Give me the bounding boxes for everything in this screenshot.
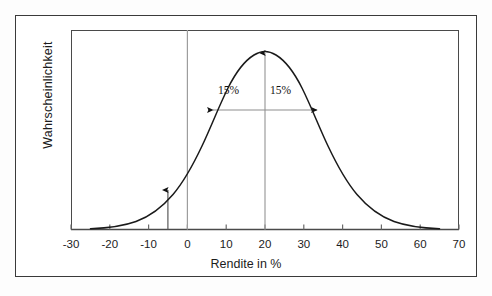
x-tick-label-7: 40	[323, 238, 363, 250]
x-tick-label-8: 50	[361, 238, 401, 250]
sigma-left-label: 15%	[218, 84, 239, 96]
x-tick-label-1: -20	[90, 238, 130, 250]
x-axis-label: Rendite in %	[0, 257, 492, 271]
x-tick-label-3: 0	[167, 238, 207, 250]
y-axis-label: Wahrscheinlichkeit	[41, 20, 55, 170]
x-tick-label-4: 10	[206, 238, 246, 250]
x-tick-label-10: 70	[439, 238, 479, 250]
figure-container: Wahrscheinlichkeit -30 -20 -10 0 10 20 3…	[0, 0, 492, 296]
chart-svg	[0, 0, 492, 296]
sigma-right-label: 15%	[270, 84, 291, 96]
x-tick-label-5: 20	[245, 238, 285, 250]
x-tick-label-0: -30	[51, 238, 91, 250]
x-tick-label-2: -10	[129, 238, 169, 250]
x-tick-label-6: 30	[284, 238, 324, 250]
x-tick-label-9: 60	[400, 238, 440, 250]
